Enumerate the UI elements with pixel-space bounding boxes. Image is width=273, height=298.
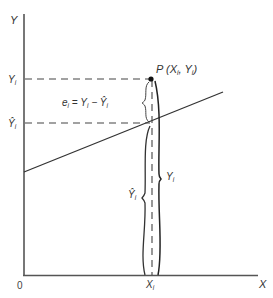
regression-diagram: Y X 0 P (Xi, Yi) Yi Ŷi Xi ei = Yi − Ŷi Ŷ… xyxy=(0,0,273,298)
y-axis-label: Y xyxy=(10,14,18,26)
fitted-brace xyxy=(142,126,150,275)
origin-label: 0 xyxy=(17,280,23,291)
xi-tick-label: Xi xyxy=(145,279,155,291)
regression-line xyxy=(24,92,223,172)
point-p-label: P (Xi, Yi) xyxy=(156,63,197,76)
x-axis-label: X xyxy=(258,278,267,290)
fitted-y-tick-label: Ŷi xyxy=(8,117,17,130)
observed-y-tick-label: Yi xyxy=(8,74,17,86)
data-point-p xyxy=(148,76,153,81)
residual-brace xyxy=(142,82,149,122)
observed-brace xyxy=(155,81,161,275)
fitted-brace-label: Ŷi xyxy=(128,188,137,201)
residual-equation: ei = Yi − Ŷi xyxy=(62,96,108,109)
observed-brace-label: Yi xyxy=(166,171,175,183)
